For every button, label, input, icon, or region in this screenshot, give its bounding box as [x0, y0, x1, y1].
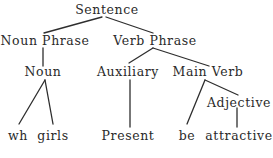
node-verb-phrase: Verb Phrase — [113, 34, 197, 48]
edge-noun-wh — [19, 80, 45, 124]
node-noun: Noun — [25, 65, 62, 79]
edge-main-verb-adjective — [205, 80, 238, 95]
node-noun-phrase: Noun Phrase — [1, 34, 90, 48]
edge-main-verb-be — [187, 80, 205, 124]
leaf-attractive: attractive — [205, 129, 272, 143]
leaf-wh: wh — [8, 129, 28, 143]
edge-sentence-verb-phrase — [106, 17, 153, 33]
node-main-verb: Main Verb — [173, 65, 244, 79]
node-auxiliary: Auxiliary — [97, 65, 159, 79]
leaf-be: be — [179, 129, 196, 143]
leaf-present: Present — [102, 129, 155, 143]
node-adjective: Adjective — [207, 96, 271, 110]
syntax-tree-diagram: Sentence Noun Phrase Verb Phrase Noun Au… — [0, 0, 273, 158]
node-sentence: Sentence — [75, 3, 139, 17]
leaf-girls: girls — [37, 129, 68, 143]
edge-noun-girls — [45, 80, 53, 124]
edge-sentence-noun-phrase — [44, 17, 102, 33]
edge-verb-phrase-auxiliary — [129, 48, 153, 63]
